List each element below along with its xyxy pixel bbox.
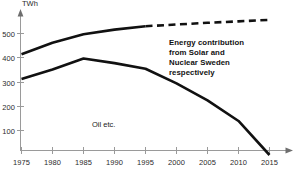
- x-tick-label-1990: 1990: [106, 158, 123, 167]
- chart-canvas: TWh 500 400 300 200 100 1975 1980 1985 1…: [0, 0, 297, 170]
- x-tick-labels: 1975 1980 1985 1990 1995 2000 2005 2010 …: [13, 158, 278, 167]
- x-axis-arrow-icon: [286, 148, 294, 154]
- oil-etc-label: Oil etc.: [92, 120, 115, 129]
- x-axis: [21, 148, 294, 154]
- annotation-line-3: Nuclear Sweden: [169, 58, 230, 67]
- annotation-line-4: respectively: [169, 68, 215, 77]
- x-tick-label-1985: 1985: [75, 158, 92, 167]
- x-tick-label-2015: 2015: [261, 158, 278, 167]
- y-tick-label-500: 500: [2, 30, 15, 39]
- annotation-line-1: Energy contribution: [169, 38, 244, 47]
- series-line-total-solid: [22, 26, 146, 54]
- energy-line-chart: TWh 500 400 300 200 100 1975 1980 1985 1…: [0, 0, 297, 170]
- series-line-oil: [22, 59, 270, 155]
- y-tick-label-100: 100: [2, 127, 15, 136]
- y-axis-unit-label: TWh: [22, 0, 38, 8]
- y-tick-label-400: 400: [2, 54, 15, 63]
- y-tick-label-200: 200: [2, 103, 15, 112]
- y-tick-labels: 500 400 300 200 100: [2, 30, 15, 136]
- x-tick-label-1980: 1980: [44, 158, 61, 167]
- series-line-total-dashed: [146, 20, 270, 26]
- y-axis-arrow-icon: [18, 9, 24, 17]
- x-tick-label-1975: 1975: [13, 158, 30, 167]
- x-tick-label-2010: 2010: [230, 158, 247, 167]
- x-tick-label-1995: 1995: [137, 158, 154, 167]
- energy-contribution-annotation: Energy contribution from Solar and Nucle…: [169, 38, 244, 77]
- y-tick-label-300: 300: [2, 79, 15, 88]
- x-tick-label-2000: 2000: [168, 158, 185, 167]
- x-tick-label-2005: 2005: [199, 158, 216, 167]
- annotation-line-2: from Solar and: [169, 48, 225, 57]
